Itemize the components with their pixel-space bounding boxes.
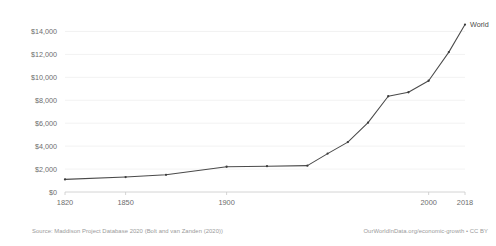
data-point-marker — [448, 51, 450, 53]
series-line — [65, 25, 465, 180]
y-tick-label: $8,000 — [35, 96, 57, 105]
x-tick-label: 2000 — [420, 198, 436, 207]
series-label-world: World — [470, 20, 489, 29]
y-tick-label: $10,000 — [31, 73, 57, 82]
data-point-marker — [306, 164, 308, 166]
x-axis-tick-labels: 18201850190020002018 — [57, 198, 473, 207]
data-point-marker — [165, 174, 167, 176]
x-tick-label: 1820 — [57, 198, 73, 207]
data-point-marker — [407, 91, 409, 93]
y-tick-label: $4,000 — [35, 142, 57, 151]
data-series-group — [64, 23, 466, 180]
line-chart: $0$2,000$4,000$6,000$8,000$10,000$12,000… — [0, 0, 496, 246]
data-point-marker — [387, 95, 389, 97]
x-tick-marks — [65, 192, 465, 195]
y-tick-label: $0 — [49, 188, 57, 197]
source-note: Source: Maddison Project Database 2020 (… — [32, 228, 223, 234]
data-point-marker — [124, 176, 126, 178]
data-point-marker — [225, 166, 227, 168]
data-point-marker — [326, 152, 328, 154]
attribution-note: OurWorldInData.org/economic-growth • CC … — [363, 228, 488, 234]
gridlines — [65, 31, 465, 169]
data-point-marker — [427, 80, 429, 82]
y-tick-label: $6,000 — [35, 119, 57, 128]
data-point-marker — [464, 23, 466, 25]
x-tick-label: 2018 — [457, 198, 473, 207]
x-tick-label: 1850 — [117, 198, 133, 207]
y-axis-tick-labels: $0$2,000$4,000$6,000$8,000$10,000$12,000… — [31, 27, 57, 197]
series-end-labels: World — [470, 20, 489, 29]
data-point-marker — [367, 121, 369, 123]
data-point-marker — [266, 165, 268, 167]
y-tick-label: $2,000 — [35, 165, 57, 174]
data-point-marker — [347, 141, 349, 143]
data-point-marker — [64, 178, 66, 180]
y-tick-label: $14,000 — [31, 27, 57, 36]
y-tick-label: $12,000 — [31, 50, 57, 59]
x-tick-label: 1900 — [218, 198, 234, 207]
chart-container: $0$2,000$4,000$6,000$8,000$10,000$12,000… — [0, 0, 496, 246]
